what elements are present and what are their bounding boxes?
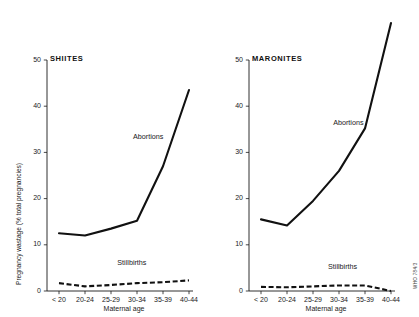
x-axis-title: Maternal age [306, 305, 347, 312]
x-axis-tick-label: 20-24 [278, 296, 296, 303]
x-axis-tick-label: 25-29 [304, 296, 322, 303]
y-axis-tick-label: 0 [25, 287, 41, 294]
x-axis-tick-label: 30-34 [128, 296, 146, 303]
x-axis-tick-label: 35-39 [356, 296, 374, 303]
x-axis-tick-label: 35-39 [154, 296, 172, 303]
figure-credit: WHO 784/3 [413, 262, 418, 289]
y-axis-tick-label: 50 [25, 56, 41, 63]
plot-area-shiites [0, 0, 209, 317]
series-label-abortions: Abortions [133, 132, 163, 141]
chart-panel-shiites: SHIITES Pregnancy wastage (% total pregn… [0, 0, 209, 317]
figure-container: SHIITES Pregnancy wastage (% total pregn… [0, 0, 419, 317]
x-axis-tick-label: 40-44 [382, 296, 400, 303]
series-label-abortions: Abortions [333, 118, 363, 127]
x-axis-tick-label: 30-34 [330, 296, 348, 303]
y-axis-tick-label: 40 [25, 102, 41, 109]
y-axis-tick-label: 30 [227, 148, 243, 155]
x-axis-tick-label: < 20 [254, 296, 268, 303]
series-label-stillbirths: Stillbirths [328, 262, 357, 271]
y-axis-tick-label: 40 [227, 102, 243, 109]
x-axis-tick-label: 40-44 [180, 296, 198, 303]
x-axis-tick-label: 20-24 [76, 296, 94, 303]
x-axis-tick-label: < 20 [52, 296, 66, 303]
y-axis-title: Pregnancy wastage (% total pregnancies) [15, 163, 22, 285]
y-axis-tick-label: 30 [25, 148, 41, 155]
y-axis-tick-label: 20 [227, 194, 243, 201]
y-axis-tick-label: 0 [227, 287, 243, 294]
plot-area-maronites [210, 0, 419, 317]
y-axis-tick-label: 10 [227, 240, 243, 247]
series-label-stillbirths: Stillbirths [117, 258, 146, 267]
y-axis-tick-label: 10 [25, 240, 41, 247]
x-axis-tick-label: 25-29 [102, 296, 120, 303]
y-axis-tick-label: 20 [25, 194, 41, 201]
x-axis-title: Maternal age [104, 305, 145, 312]
y-axis-tick-label: 50 [227, 56, 243, 63]
chart-panel-maronites: MARONITES Maternal age Abortions Stillbi… [210, 0, 419, 317]
